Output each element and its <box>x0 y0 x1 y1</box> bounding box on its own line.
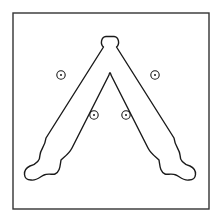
part-outline <box>24 37 195 181</box>
hole-upper-left <box>57 71 65 79</box>
frame-border <box>13 13 209 209</box>
hole-lower-left <box>90 111 98 119</box>
hole-upper-right <box>151 71 159 79</box>
hole-center-dot-icon <box>93 114 95 116</box>
hole-center-dot-icon <box>60 74 62 76</box>
diagram-canvas <box>0 0 219 219</box>
hole-center-dot-icon <box>154 74 156 76</box>
hole-center-dot-icon <box>125 114 127 116</box>
technical-drawing <box>0 0 219 219</box>
hole-lower-right <box>122 111 130 119</box>
